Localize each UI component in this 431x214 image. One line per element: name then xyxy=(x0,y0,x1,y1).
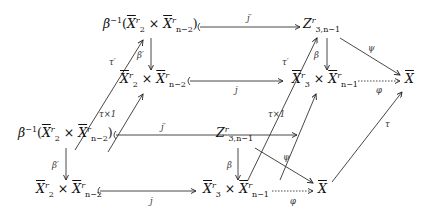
sub-3-n-1: 3,n−1 xyxy=(316,25,341,34)
sub-n-2: n−2 xyxy=(169,80,186,89)
z-symbol: Z xyxy=(303,16,312,31)
node-back-top-mid: Zr3,n−1 xyxy=(303,18,340,31)
arrow-tau-times-1-right xyxy=(280,94,316,180)
hook-j-top xyxy=(188,77,190,85)
r-sup: r xyxy=(212,181,216,190)
r-sup: r xyxy=(87,125,91,134)
z-symbol: Z xyxy=(216,125,225,140)
sub-n-1: n−1 xyxy=(252,190,269,199)
x-symbol: X xyxy=(78,125,87,140)
sub-n-2: n−2 xyxy=(176,25,193,34)
label-tau-times-1-right: τ×1 xyxy=(268,110,285,119)
label-j-prime-bottom: j′ xyxy=(161,123,166,132)
times-symbol: × xyxy=(60,125,78,140)
label-phi-top: φ xyxy=(376,86,382,95)
node-front-top-left: β−1(Xr2 × Xrn−2) xyxy=(18,127,113,140)
label-tau-prime-right: τ′ xyxy=(282,58,289,67)
label-j-top: j xyxy=(235,86,238,95)
x-symbol: X xyxy=(318,181,327,196)
x-symbol: X xyxy=(36,181,45,196)
node-front-bot-left: Xr2 × Xrn−2 xyxy=(36,183,102,196)
label-psi-top: ψ xyxy=(368,44,375,53)
r-sup: r xyxy=(225,125,229,134)
times-symbol: × xyxy=(221,181,239,196)
r-sup: r xyxy=(165,71,169,80)
arrow-tau-times-1-left xyxy=(108,94,143,152)
commutative-diagram: β−1(Xr2 × Xrn−2) Zr3,n−1 Xr2 × Xrn−2 Xr3… xyxy=(0,0,431,214)
label-j-prime-top: j′ xyxy=(247,14,252,23)
label-beta-prime-top: β′ xyxy=(137,51,144,60)
hook-j-prime-top xyxy=(198,23,200,31)
label-tau-right: τ xyxy=(385,120,390,129)
x-symbol: X xyxy=(127,16,136,31)
label-beta-bottom: β xyxy=(227,161,232,170)
inverse-superscript: −1 xyxy=(25,125,37,134)
paren: ) xyxy=(193,16,198,31)
node-back-top-left: β−1(Xr2 × Xrn−2) xyxy=(103,18,198,31)
r-sup: r xyxy=(81,181,85,190)
r-sup: r xyxy=(129,71,133,80)
times-symbol: × xyxy=(310,71,328,86)
sub-n-1: n−1 xyxy=(341,80,358,89)
node-front-right: X xyxy=(318,183,327,196)
label-tau-prime-left: τ′ xyxy=(109,58,116,67)
x-symbol: X xyxy=(203,181,212,196)
x-symbol: X xyxy=(42,125,51,140)
label-phi-bottom: φ xyxy=(290,197,296,206)
x-symbol: X xyxy=(239,181,248,196)
x-symbol: X xyxy=(292,71,301,86)
node-front-bot-mid: Xr3 × Xrn−1 xyxy=(203,183,269,196)
node-back-mid-mid: Xr3 × Xrn−1 xyxy=(292,73,358,86)
paren: ) xyxy=(108,125,113,140)
sub-n-2: n−2 xyxy=(85,190,102,199)
x-symbol: X xyxy=(405,71,414,86)
label-tau-times-1-left: τ×1 xyxy=(99,110,116,119)
r-sup: r xyxy=(337,71,341,80)
r-sup: r xyxy=(136,16,140,25)
times-symbol: × xyxy=(138,71,156,86)
r-sup: r xyxy=(45,181,49,190)
node-back-mid-left: Xr2 × Xrn−2 xyxy=(120,73,186,86)
r-sup: r xyxy=(301,71,305,80)
label-beta-prime-bottom: β′ xyxy=(52,161,59,170)
times-symbol: × xyxy=(54,181,72,196)
node-front-top-mid: Zr3,n−1 xyxy=(216,127,253,140)
r-sup: r xyxy=(248,181,252,190)
x-symbol: X xyxy=(156,71,165,86)
sub-3-n-1: 3,n−1 xyxy=(229,134,254,143)
x-symbol: X xyxy=(328,71,337,86)
label-psi-bottom: ψ xyxy=(283,153,290,162)
arrow-tau-right xyxy=(332,92,402,182)
node-back-right: X xyxy=(405,73,414,86)
r-sup: r xyxy=(51,125,55,134)
r-sup: r xyxy=(172,16,176,25)
inverse-superscript: −1 xyxy=(110,16,122,25)
label-j-bottom: j xyxy=(150,197,153,206)
x-symbol: X xyxy=(120,71,129,86)
label-beta-top: β xyxy=(314,51,319,60)
x-symbol: X xyxy=(72,181,81,196)
hook-j-prime-bottom xyxy=(114,131,116,139)
x-symbol: X xyxy=(163,16,172,31)
r-sup: r xyxy=(312,16,316,25)
sub-n-2: n−2 xyxy=(91,134,108,143)
times-symbol: × xyxy=(145,16,163,31)
